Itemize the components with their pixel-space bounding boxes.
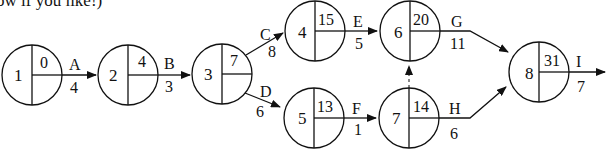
activity-duration: 3 <box>165 78 173 95</box>
node-earliest-time: 0 <box>40 54 48 71</box>
activity-label: H <box>449 100 461 117</box>
node-5: 5 13 <box>284 88 344 148</box>
node-earliest-time: 31 <box>544 52 560 69</box>
node-id: 7 <box>392 109 401 128</box>
node-3: 3 7 <box>192 44 252 104</box>
node-id: 5 <box>298 109 307 128</box>
activity-duration: 6 <box>450 125 458 142</box>
activity-A: A 4 <box>62 56 96 96</box>
node-earliest-time: 20 <box>413 11 429 28</box>
node-earliest-time: 14 <box>413 98 429 115</box>
activity-G: G 11 <box>440 13 508 52</box>
activity-I: I 7 <box>569 53 605 95</box>
node-earliest-time: 15 <box>318 11 334 28</box>
node-8: 8 31 <box>509 42 569 102</box>
node-id: 8 <box>525 64 534 83</box>
node-earliest-time: 13 <box>317 98 333 115</box>
node-earliest-time: 4 <box>138 53 146 70</box>
activity-network-diagram: 1 0 2 4 3 7 4 15 5 13 6 20 <box>0 0 606 150</box>
activity-duration: 8 <box>268 43 276 60</box>
node-id: 1 <box>14 66 23 85</box>
activity-duration: 11 <box>450 35 465 52</box>
node-7: 7 14 <box>379 88 439 148</box>
activity-D: D 6 <box>245 83 280 120</box>
activity-duration: 7 <box>577 78 585 95</box>
activity-duration: 4 <box>70 79 78 96</box>
activity-duration: 6 <box>256 103 264 120</box>
activity-label: C <box>260 26 271 43</box>
activity-label: E <box>353 13 363 30</box>
activity-label: B <box>164 55 175 72</box>
node-6: 6 20 <box>380 1 440 61</box>
node-1: 1 0 <box>2 45 62 105</box>
activity-label: G <box>451 13 463 30</box>
activity-label: F <box>352 100 361 117</box>
activity-B: B 3 <box>158 55 190 95</box>
node-4: 4 15 <box>285 1 345 61</box>
node-earliest-time: 7 <box>230 52 238 69</box>
activity-F: F 1 <box>344 100 376 138</box>
node-id: 3 <box>204 65 213 84</box>
node-id: 4 <box>298 23 307 42</box>
activity-duration: 5 <box>355 35 363 52</box>
node-id: 6 <box>394 23 403 42</box>
activity-label: A <box>69 56 81 73</box>
node-2: 2 4 <box>98 45 158 105</box>
activity-E: E 5 <box>345 13 377 52</box>
activity-label: I <box>576 53 581 70</box>
activity-label: D <box>260 83 272 100</box>
activity-C: C 8 <box>246 26 283 60</box>
activity-H: H 6 <box>439 87 506 142</box>
node-id: 2 <box>109 66 118 85</box>
activity-duration: 1 <box>354 121 362 138</box>
